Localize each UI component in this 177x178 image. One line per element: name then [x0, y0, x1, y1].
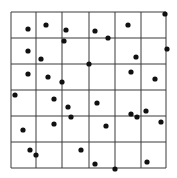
point	[33, 152, 38, 157]
point	[158, 119, 163, 124]
point	[134, 114, 139, 119]
point	[43, 22, 48, 27]
point	[59, 79, 64, 84]
point	[125, 22, 130, 27]
point	[78, 147, 83, 152]
point	[25, 71, 30, 76]
point	[51, 96, 56, 101]
point	[25, 48, 30, 53]
point	[65, 104, 70, 109]
point	[27, 147, 32, 152]
point	[45, 74, 50, 79]
grid-lines	[11, 12, 166, 168]
point	[92, 161, 97, 166]
point	[143, 108, 148, 113]
point	[105, 35, 110, 40]
point	[103, 123, 108, 128]
point	[25, 26, 30, 31]
point	[94, 100, 99, 105]
point	[68, 114, 73, 119]
point-grid-diagram	[0, 0, 177, 178]
point	[20, 127, 25, 132]
point	[144, 159, 149, 164]
point	[86, 61, 91, 66]
point	[112, 166, 117, 171]
point	[162, 11, 167, 16]
point	[128, 69, 133, 74]
point	[61, 38, 66, 43]
point	[51, 121, 56, 126]
point	[63, 27, 68, 32]
point	[38, 56, 43, 61]
point	[92, 28, 97, 33]
point	[152, 76, 157, 81]
point	[128, 111, 133, 116]
point	[133, 54, 138, 59]
point	[12, 92, 17, 97]
point	[164, 46, 169, 51]
